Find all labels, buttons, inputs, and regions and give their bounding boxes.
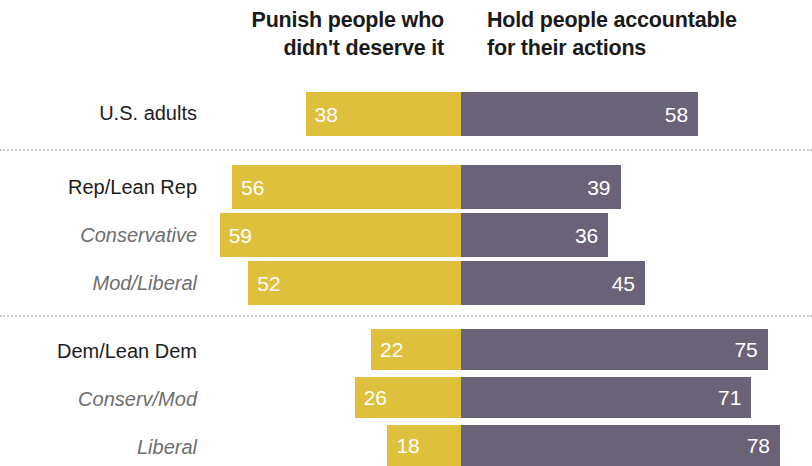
bar-segment-punish: 59 <box>220 213 461 257</box>
bar-segment-accountable: 78 <box>461 425 780 466</box>
bar-value-punish: 18 <box>387 435 419 456</box>
bar-value-punish: 38 <box>306 104 338 125</box>
bar-segment-punish: 56 <box>232 165 461 209</box>
bar-segment-punish: 38 <box>306 92 461 136</box>
bar-segment-accountable: 58 <box>461 92 698 136</box>
bar-segment-punish: 22 <box>371 329 461 370</box>
group-separator-upper <box>0 149 812 151</box>
bar-row: U.S. adults3858 <box>0 92 812 136</box>
bar-value-accountable: 75 <box>734 339 767 360</box>
bar-value-punish: 52 <box>248 273 280 294</box>
bar-track: 2275 <box>0 329 812 370</box>
bar-row: Dem/Lean Dem2275 <box>0 329 812 370</box>
bar-track: 2671 <box>0 377 812 418</box>
bar-track: 1878 <box>0 425 812 466</box>
bar-segment-punish: 26 <box>355 377 461 418</box>
bar-value-punish: 22 <box>371 339 403 360</box>
group-separator-lower <box>0 315 812 317</box>
bar-value-punish: 59 <box>220 225 252 246</box>
bar-row: Mod/Liberal5245 <box>0 261 812 305</box>
bar-segment-accountable: 71 <box>461 377 751 418</box>
bar-value-accountable: 71 <box>718 387 751 408</box>
bar-segment-accountable: 36 <box>461 213 608 257</box>
bar-track: 3858 <box>0 92 812 136</box>
bar-value-accountable: 78 <box>747 435 780 456</box>
bar-row: Conservative5936 <box>0 213 812 257</box>
bar-segment-accountable: 39 <box>461 165 621 209</box>
bar-segment-accountable: 75 <box>461 329 768 370</box>
bar-row: Liberal1878 <box>0 425 812 466</box>
bar-value-accountable: 39 <box>587 177 620 198</box>
column-header-accountable: Hold people accountable for their action… <box>487 6 807 63</box>
bar-value-accountable: 36 <box>575 225 608 246</box>
bar-segment-punish: 52 <box>248 261 461 305</box>
column-header-accountable-line2: for their actions <box>487 34 807 62</box>
bar-track: 5639 <box>0 165 812 209</box>
bar-value-punish: 26 <box>355 387 387 408</box>
column-header-punish: Punish people who didn't deserve it <box>170 6 444 63</box>
bar-track: 5245 <box>0 261 812 305</box>
bar-row: Rep/Lean Rep5639 <box>0 165 812 209</box>
bar-row: Conserv/Mod2671 <box>0 377 812 418</box>
bar-segment-punish: 18 <box>387 425 461 466</box>
bar-value-accountable: 58 <box>665 104 698 125</box>
column-header-punish-line1: Punish people who <box>170 6 444 34</box>
bar-value-accountable: 45 <box>612 273 645 294</box>
bar-value-punish: 56 <box>232 177 264 198</box>
bar-segment-accountable: 45 <box>461 261 645 305</box>
column-header-punish-line2: didn't deserve it <box>170 34 444 62</box>
column-header-accountable-line1: Hold people accountable <box>487 6 807 34</box>
bar-track: 5936 <box>0 213 812 257</box>
